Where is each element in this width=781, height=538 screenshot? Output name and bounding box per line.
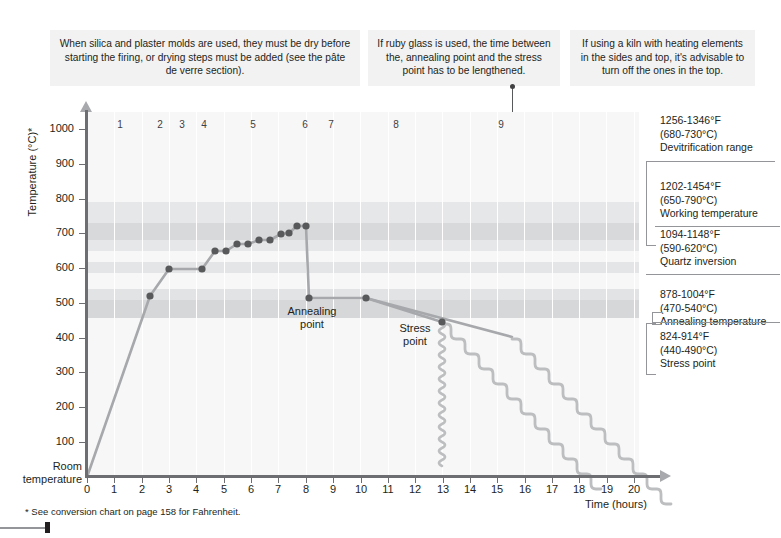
callout-box-kiln-elements: If using a kiln with heating elements in… [570, 30, 755, 86]
gridline-v [306, 112, 307, 477]
gridline-v [278, 112, 279, 477]
x-tick-18: 18 [568, 483, 590, 495]
gridline-v [497, 112, 498, 477]
callout-leader-dot-top [510, 84, 515, 89]
x-tick-mark [415, 478, 416, 483]
gridline-v [251, 112, 252, 477]
x-tick-0: 0 [76, 483, 98, 495]
x-tick-mark [87, 478, 88, 483]
y-tick-200: 200 [28, 400, 74, 412]
y-tick-500: 500 [28, 296, 74, 308]
legend-brace-devitrification [646, 161, 656, 246]
y-axis-line [85, 110, 88, 478]
x-tick-6: 6 [240, 483, 262, 495]
y-tick-800: 800 [28, 192, 74, 204]
x-tick-20: 20 [623, 483, 645, 495]
x-tick-mark [552, 478, 553, 483]
x-tick-17: 17 [541, 483, 563, 495]
legend-working-temperature: 1202-1454°F (650-790°C) Working temperat… [660, 180, 758, 221]
x-tick-mark [114, 478, 115, 483]
x-tick-11: 11 [377, 483, 399, 495]
phase-marker-8: 8 [388, 119, 404, 130]
gridline-v [634, 112, 635, 477]
x-tick-10: 10 [350, 483, 372, 495]
y-tick-mark [79, 129, 85, 130]
page-corner-rule [0, 527, 48, 529]
legend-devitrification-range: 1256-1346°F (680-730°C) Devitrification … [660, 114, 753, 155]
gridline-v [606, 112, 607, 477]
legend-annealing-c: (470-540°C) [660, 302, 766, 316]
gridline-v [196, 112, 197, 477]
legend-devitrification-f: 1256-1346°F [660, 114, 753, 128]
annealing-point-line2: point [272, 318, 352, 331]
room-temperature-line1: Room [10, 460, 82, 473]
x-tick-mark [497, 478, 498, 483]
x-tick-mark [306, 478, 307, 483]
annealing-point-label: Annealing point [272, 305, 352, 331]
x-tick-mark [579, 478, 580, 483]
annealing-point-line1: Annealing [272, 305, 352, 318]
legend-rule-quartz [646, 274, 780, 275]
legend-working-name: Working temperature [660, 207, 758, 221]
legend-quartz-f: 1094-1148°F [660, 228, 736, 242]
y-tick-mark [79, 303, 85, 304]
x-tick-14: 14 [459, 483, 481, 495]
stress-point-line2: point [382, 335, 448, 348]
callout-box-ruby-glass: If ruby glass is used, the time between … [368, 30, 560, 86]
x-tick-5: 5 [213, 483, 235, 495]
x-tick-9: 9 [322, 483, 344, 495]
y-tick-600: 600 [28, 261, 74, 273]
legend-stress-name: Stress point [660, 357, 717, 371]
phase-marker-1: 1 [112, 119, 128, 130]
gridline-v [333, 112, 334, 477]
stress-point-label: Stress point [382, 322, 448, 348]
legend-annealing-f: 878-1004°F [660, 288, 766, 302]
room-temperature-label: Room temperature [10, 460, 82, 486]
gridline-v [579, 112, 580, 477]
y-tick-1000: 1000 [28, 122, 74, 134]
legend-working-f: 1202-1454°F [660, 180, 758, 194]
legend-stress-c: (440-490°C) [660, 344, 717, 358]
x-axis-arrow [660, 470, 671, 482]
x-axis-title: Time (hours) [585, 498, 647, 510]
legend-devitrification-c: (680-730°C) [660, 128, 753, 142]
x-tick-16: 16 [514, 483, 536, 495]
gridline-v [169, 112, 170, 477]
phase-marker-4: 4 [196, 119, 212, 130]
phase-marker-5: 5 [245, 119, 261, 130]
gridline-v [442, 112, 443, 477]
x-tick-1: 1 [103, 483, 125, 495]
y-tick-900: 900 [28, 157, 74, 169]
y-tick-mark [79, 233, 85, 234]
phase-marker-9: 9 [493, 119, 509, 130]
gridline-v [524, 112, 525, 477]
room-temperature-line2: temperature [10, 473, 82, 486]
legend-stress-f: 824-914°F [660, 330, 717, 344]
x-tick-7: 7 [267, 483, 289, 495]
gridline-v [114, 112, 115, 477]
legend-rule-working [655, 226, 780, 227]
y-tick-100: 100 [28, 435, 74, 447]
phase-marker-6: 6 [297, 119, 313, 130]
legend-devitrification-name: Devitrification range [660, 141, 753, 155]
y-tick-300: 300 [28, 365, 74, 377]
y-tick-mark [79, 338, 85, 339]
gridline-v [142, 112, 143, 477]
x-tick-mark [607, 478, 608, 483]
legend-quartz-name: Quartz inversion [660, 255, 736, 269]
x-tick-2: 2 [131, 483, 153, 495]
gridline-v [552, 112, 553, 477]
x-tick-mark [361, 478, 362, 483]
y-tick-400: 400 [28, 331, 74, 343]
gridline-v [360, 112, 361, 477]
x-tick-13: 13 [432, 483, 454, 495]
x-tick-8: 8 [295, 483, 317, 495]
phase-marker-3: 3 [174, 119, 190, 130]
y-tick-mark [79, 199, 85, 200]
x-tick-mark [278, 478, 279, 483]
x-tick-15: 15 [486, 483, 508, 495]
legend-rule-annealing [652, 322, 780, 323]
x-tick-mark [388, 478, 389, 483]
x-tick-mark [333, 478, 334, 483]
page-corner-tab [45, 522, 50, 533]
